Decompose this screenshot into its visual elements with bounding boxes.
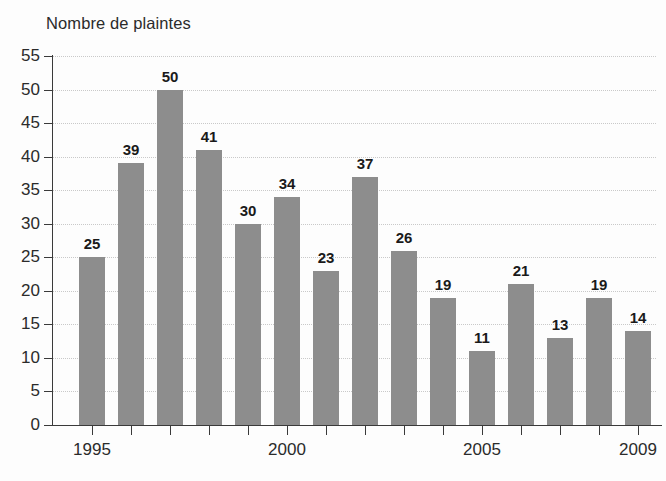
bar (547, 338, 573, 425)
bar-value-label: 13 (552, 316, 569, 333)
y-axis-tick-mark (44, 425, 53, 426)
bar (586, 298, 612, 425)
x-axis-tick-label: 2009 (619, 440, 657, 460)
bar (625, 331, 651, 425)
x-axis-tick-mark (482, 425, 483, 435)
x-axis-tick-label: 2000 (268, 440, 306, 460)
x-axis-tick-mark (443, 425, 444, 435)
y-axis-tick-mark (44, 391, 53, 392)
y-axis-tick-label: 10 (0, 348, 40, 368)
bar-value-label: 25 (84, 235, 101, 252)
gridline (52, 56, 656, 57)
bar-value-label: 50 (162, 68, 179, 85)
bar (508, 284, 534, 425)
bar (352, 177, 378, 425)
bar (118, 163, 144, 425)
x-axis-line (44, 425, 662, 426)
bar-value-label: 11 (474, 329, 490, 346)
y-axis-tick-mark (44, 90, 53, 91)
bar (196, 150, 222, 425)
bar-value-label: 14 (630, 309, 647, 326)
x-axis-tick-mark (521, 425, 522, 435)
plot-area (52, 56, 656, 425)
y-axis-tick-mark (44, 157, 53, 158)
bar-value-label: 23 (318, 249, 335, 266)
y-axis-tick-mark (44, 358, 53, 359)
y-axis-tick-label: 55 (0, 46, 40, 66)
y-axis-tick-label: 30 (0, 214, 40, 234)
bar-value-label: 39 (123, 141, 140, 158)
y-axis-tick-mark (44, 123, 53, 124)
bar (79, 257, 105, 425)
bar (391, 251, 417, 425)
gridline (52, 90, 656, 91)
x-axis-tick-mark (209, 425, 210, 435)
y-axis-line (52, 55, 53, 426)
y-axis-tick-label: 15 (0, 314, 40, 334)
x-axis-tick-mark (599, 425, 600, 435)
x-axis-tick-mark (287, 425, 288, 435)
y-axis-tick-label: 35 (0, 180, 40, 200)
y-axis-tick-label: 50 (0, 80, 40, 100)
bar (469, 351, 495, 425)
bar-value-label: 37 (357, 155, 374, 172)
bar (430, 298, 456, 425)
y-axis-tick-mark (44, 291, 53, 292)
bar-value-label: 21 (513, 262, 530, 279)
y-axis-tick-mark (44, 224, 53, 225)
bar (313, 271, 339, 425)
x-axis-tick-mark (131, 425, 132, 435)
y-axis-tick-label: 0 (0, 415, 40, 435)
y-axis-tick-mark (44, 56, 53, 57)
y-axis-tick-mark (44, 257, 53, 258)
y-axis-tick-label: 25 (0, 247, 40, 267)
x-axis-tick-label: 2005 (463, 440, 501, 460)
x-axis-tick-mark (248, 425, 249, 435)
y-axis-tick-label: 40 (0, 147, 40, 167)
bar-value-label: 19 (591, 276, 608, 293)
bar-value-label: 41 (201, 128, 218, 145)
chart-title: Nombre de plaintes (46, 14, 191, 33)
x-axis-tick-mark (170, 425, 171, 435)
bar-value-label: 19 (435, 276, 452, 293)
bar-value-label: 34 (279, 175, 296, 192)
bar-chart-figure: Nombre de plaintes 051015202530354045505… (0, 0, 666, 481)
x-axis-tick-mark (326, 425, 327, 435)
y-axis-tick-mark (44, 324, 53, 325)
bar (235, 224, 261, 425)
y-axis-tick-labels: 0510152025303540455055 (0, 0, 40, 481)
x-axis-tick-mark (92, 425, 93, 435)
bar-value-label: 30 (240, 202, 257, 219)
y-axis-tick-label: 5 (0, 381, 40, 401)
gridline (52, 123, 656, 124)
y-axis-tick-label: 20 (0, 281, 40, 301)
x-axis-tick-mark (560, 425, 561, 435)
y-axis-tick-mark (44, 190, 53, 191)
bar-value-label: 26 (396, 229, 413, 246)
x-axis-tick-mark (404, 425, 405, 435)
gridline (52, 157, 656, 158)
bar (274, 197, 300, 425)
x-axis-tick-mark (638, 425, 639, 435)
x-axis-tick-mark (365, 425, 366, 435)
x-axis-tick-label: 1995 (73, 440, 111, 460)
bar (157, 90, 183, 425)
y-axis-tick-label: 45 (0, 113, 40, 133)
